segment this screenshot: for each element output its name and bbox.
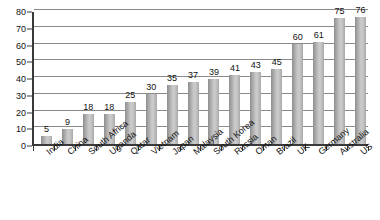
bar-value-label: 39 <box>209 68 219 77</box>
bar-value-label: 76 <box>356 6 366 15</box>
bar-slot[interactable]: 35 <box>162 12 183 144</box>
y-axis-tick-label: 30 <box>16 91 26 100</box>
bar-slot[interactable]: 9 <box>57 12 78 144</box>
bar[interactable] <box>355 17 366 144</box>
bar-value-label: 61 <box>314 31 324 40</box>
bar-value-label: 41 <box>230 64 240 73</box>
bar-value-label: 45 <box>272 58 282 67</box>
bar-value-label: 75 <box>335 7 345 16</box>
bar-value-label: 5 <box>44 125 49 134</box>
bar-slot[interactable]: 76 <box>350 12 371 144</box>
bar-slot[interactable]: 45 <box>266 12 287 144</box>
bar-slot[interactable]: 61 <box>308 12 329 144</box>
bar[interactable] <box>313 42 324 144</box>
bar-slot[interactable]: 18 <box>78 12 99 144</box>
bar[interactable] <box>271 69 282 144</box>
bar-value-label: 18 <box>83 103 93 112</box>
y-axis-tick-label: 10 <box>16 125 26 134</box>
bar-slot[interactable]: 5 <box>36 12 57 144</box>
y-axis-tick-label: 0 <box>21 142 26 151</box>
x-axis-labels: IndiaChinaSouth AfricaUgandaQatarVietnam… <box>32 150 368 220</box>
bar-value-label: 37 <box>188 71 198 80</box>
bar-value-label: 9 <box>65 118 70 127</box>
y-axis-tick-label: 50 <box>16 58 26 67</box>
y-axis-tick-label: 60 <box>16 41 26 50</box>
bar-slot[interactable]: 37 <box>183 12 204 144</box>
bar[interactable] <box>292 44 303 145</box>
bar-value-label: 18 <box>104 103 114 112</box>
y-axis-tick-label: 40 <box>16 75 26 84</box>
bar-value-label: 30 <box>146 83 156 92</box>
y-axis-tick-label: 70 <box>16 24 26 33</box>
bar-value-label: 60 <box>293 33 303 42</box>
bar-value-label: 35 <box>167 74 177 83</box>
bar-value-label: 43 <box>251 61 261 70</box>
y-axis-tick-label: 80 <box>16 8 26 17</box>
y-axis: 01020304050607080 <box>0 12 32 146</box>
bar-chart: 01020304050607080 5918182530353739414345… <box>0 0 380 220</box>
bar-value-label: 25 <box>125 91 135 100</box>
gridline <box>34 9 368 10</box>
bar-slot[interactable]: 39 <box>203 12 224 144</box>
bar-series: 591818253035373941434560617576 <box>34 12 368 144</box>
plot-area: 591818253035373941434560617576 <box>32 12 368 146</box>
bar-slot[interactable]: 30 <box>141 12 162 144</box>
bar-slot[interactable]: 60 <box>287 12 308 144</box>
bar-slot[interactable]: 75 <box>329 12 350 144</box>
y-axis-tick-label: 20 <box>16 108 26 117</box>
